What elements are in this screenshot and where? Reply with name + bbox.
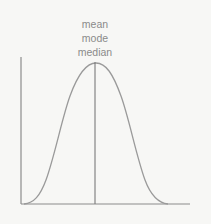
label-mean: mean <box>65 18 125 32</box>
label-median: median <box>65 46 125 60</box>
label-mode: mode <box>65 32 125 46</box>
bell-curve <box>24 63 168 204</box>
normal-distribution-diagram: mean mode median <box>0 0 211 224</box>
